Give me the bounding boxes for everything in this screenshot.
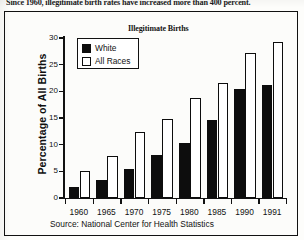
scanned-page: Since 1960, illegitimate birth rates hav… [0, 0, 304, 240]
figure-frame [4, 11, 298, 236]
page-headline: Since 1960, illegitimate birth rates hav… [6, 0, 302, 8]
